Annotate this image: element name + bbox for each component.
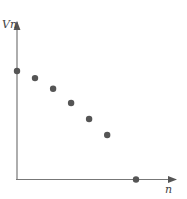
x-axis-label: n xyxy=(165,183,172,196)
data-point xyxy=(32,75,38,81)
data-points xyxy=(14,68,139,183)
scatter-plot xyxy=(0,0,187,199)
data-point xyxy=(86,116,92,122)
data-point xyxy=(104,132,110,138)
y-axis-label: Vn xyxy=(2,18,17,31)
data-point xyxy=(133,176,139,182)
data-point xyxy=(50,86,56,92)
data-point xyxy=(68,100,74,106)
data-point xyxy=(14,68,20,74)
